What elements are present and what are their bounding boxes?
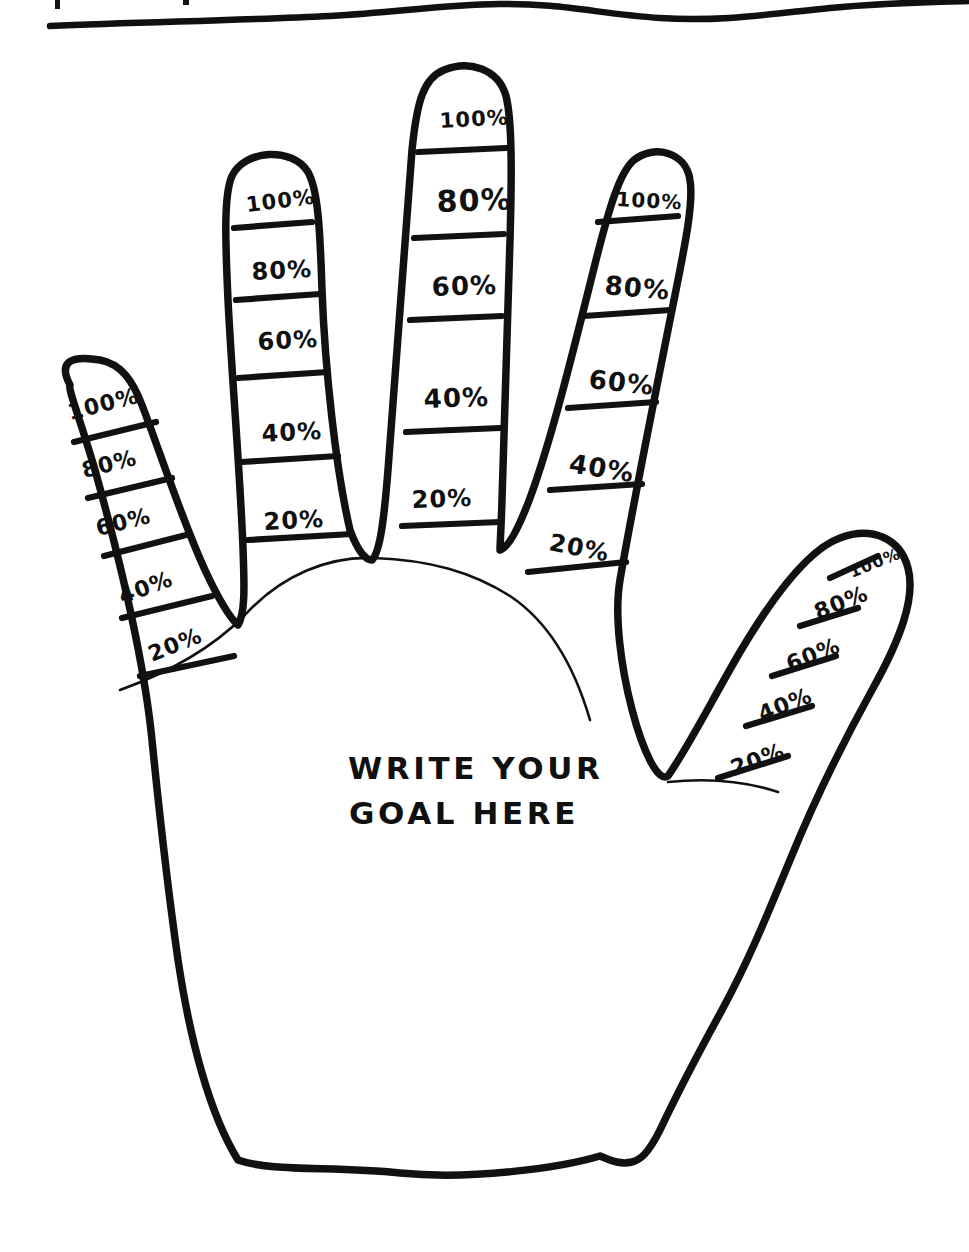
middle-label-80: 80% bbox=[436, 181, 512, 219]
palm-prompt-line-2: GOAL HERE bbox=[349, 795, 579, 831]
hand-goal-tracker-illustration: 100% 80% 60% 40% 20% 100% 80% 60% 40% 20… bbox=[0, 0, 969, 1252]
middle-divider-100-80 bbox=[418, 148, 506, 152]
palm-prompt-line-1: WRITE YOUR bbox=[348, 750, 603, 786]
ring-label-40: 40% bbox=[261, 417, 323, 448]
middle-divider-80-60 bbox=[414, 234, 504, 238]
middle-divider-40-20 bbox=[406, 428, 500, 432]
ring-label-20: 20% bbox=[263, 505, 325, 536]
stray-mark-left bbox=[55, 0, 60, 9]
top-rule-group bbox=[50, 0, 969, 26]
middle-label-100: 100% bbox=[439, 105, 509, 133]
index-label-80: 80% bbox=[603, 270, 671, 306]
ring-label-60: 60% bbox=[257, 325, 319, 356]
middle-divider-60-40 bbox=[410, 316, 502, 320]
stray-mark-right bbox=[183, 0, 189, 5]
middle-divider-20-base bbox=[402, 522, 500, 526]
middle-label-20: 20% bbox=[411, 484, 473, 514]
ring-label-80: 80% bbox=[251, 255, 313, 286]
middle-label-40: 40% bbox=[423, 382, 490, 414]
index-label-100: 100% bbox=[616, 187, 683, 214]
middle-label-60: 60% bbox=[431, 270, 498, 302]
worksheet-page: 100% 80% 60% 40% 20% 100% 80% 60% 40% 20… bbox=[0, 0, 969, 1252]
